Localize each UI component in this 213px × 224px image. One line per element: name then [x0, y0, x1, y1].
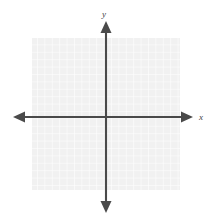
x-axis-label: x	[198, 112, 203, 122]
y-axis-bottom-arrow-icon	[101, 201, 112, 213]
y-axis-label: y	[101, 9, 106, 19]
coordinate-plane-svg: y x	[0, 0, 213, 224]
x-axis-left-arrow-icon	[13, 112, 25, 123]
y-axis-top-arrow-icon	[101, 21, 112, 33]
coordinate-plane-figure: y x	[0, 0, 213, 224]
x-axis-right-arrow-icon	[181, 112, 193, 123]
